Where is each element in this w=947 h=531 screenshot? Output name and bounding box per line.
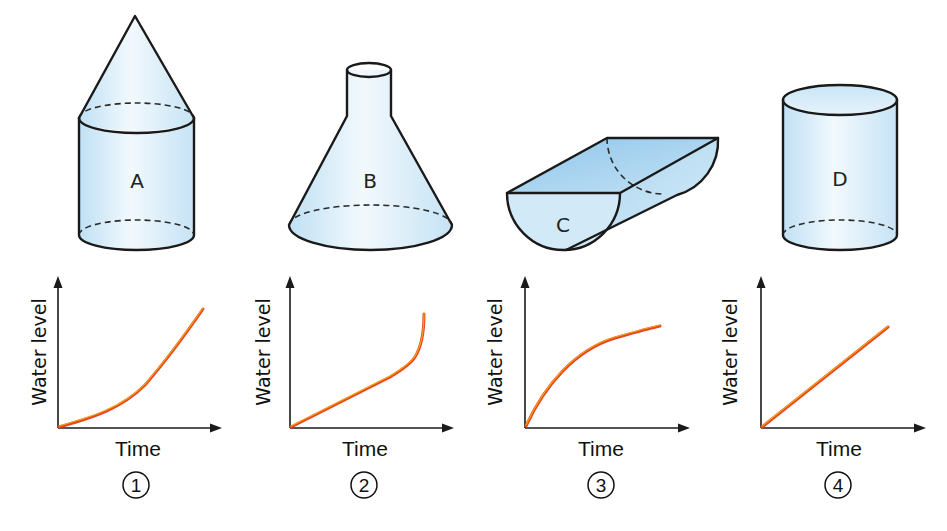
- x-axis-label: Time: [578, 437, 624, 460]
- x-axis-arrow-icon: [678, 424, 690, 433]
- flask-body: [289, 70, 452, 250]
- container-d: D: [783, 85, 897, 250]
- x-axis-arrow-icon: [442, 424, 454, 433]
- graph-number: 3: [596, 475, 607, 496]
- y-axis-label: Water level: [252, 298, 274, 405]
- x-axis-label: Time: [342, 437, 388, 460]
- container-c: C: [507, 138, 718, 250]
- graph-number: 4: [833, 475, 844, 496]
- container-label-c: C: [556, 213, 570, 237]
- graph-number: 1: [131, 475, 142, 496]
- data-curve: [59, 309, 203, 427]
- y-axis-arrow-icon: [286, 276, 295, 288]
- container-label-a: A: [130, 169, 144, 193]
- graph-3: Water level Time 3: [484, 276, 690, 498]
- x-axis-arrow-icon: [210, 424, 222, 433]
- y-axis-label: Water level: [719, 298, 741, 405]
- data-curve: [526, 326, 660, 426]
- graph-2: Water level Time 2: [252, 276, 454, 498]
- y-axis-arrow-icon: [521, 276, 530, 288]
- x-axis-label: Time: [816, 437, 862, 460]
- y-axis-arrow-icon: [757, 276, 766, 288]
- cone-top: [79, 16, 194, 131]
- container-a: A: [79, 16, 194, 250]
- graph-1: Water level Time 1: [28, 276, 222, 498]
- data-curve: [762, 327, 888, 427]
- data-curve: [291, 314, 424, 427]
- x-axis-arrow-icon: [914, 424, 926, 433]
- container-b: B: [289, 63, 452, 250]
- y-axis-label: Water level: [28, 298, 50, 405]
- y-axis-arrow-icon: [54, 276, 63, 288]
- container-label-b: B: [363, 169, 377, 193]
- graph-number: 2: [359, 475, 370, 496]
- water-level-diagram: A B C D W: [0, 0, 947, 531]
- y-axis-label: Water level: [484, 298, 506, 405]
- graph-4: Water level Time 4: [719, 276, 926, 498]
- x-axis-label: Time: [115, 437, 161, 460]
- container-label-d: D: [832, 167, 847, 191]
